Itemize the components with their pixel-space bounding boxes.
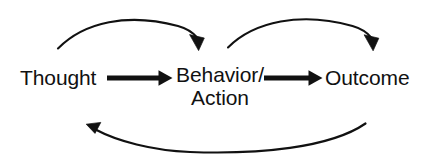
arrowhead-triangle: [159, 70, 173, 86]
arrowhead-triangle: [364, 35, 379, 51]
curved-arrow-shaft: [228, 19, 372, 47]
diagram-canvas: Thought Behavior/Action Outcome: [0, 0, 430, 161]
arrowhead-triangle: [309, 70, 323, 86]
connector-thought-to-behavior: [107, 70, 173, 86]
connector-behavior-to-outcome: [264, 70, 323, 86]
connector-thought-to-behavior-curve: [58, 20, 204, 51]
connector-behavior-to-outcome-curve: [228, 19, 379, 50]
node-label-behavior-action: Behavior/Action: [172, 64, 268, 108]
curved-arrow-shaft: [96, 124, 366, 153]
node-label-behavior-action-line2: Action: [172, 87, 268, 108]
connector-outcome-to-thought-curve: [86, 122, 365, 152]
curved-arrow-shaft: [58, 20, 197, 49]
node-label-outcome: Outcome: [325, 67, 419, 88]
node-label-thought: Thought: [20, 67, 102, 88]
arrowhead-triangle: [190, 35, 205, 51]
node-label-behavior-action-line1: Behavior/: [176, 63, 264, 86]
